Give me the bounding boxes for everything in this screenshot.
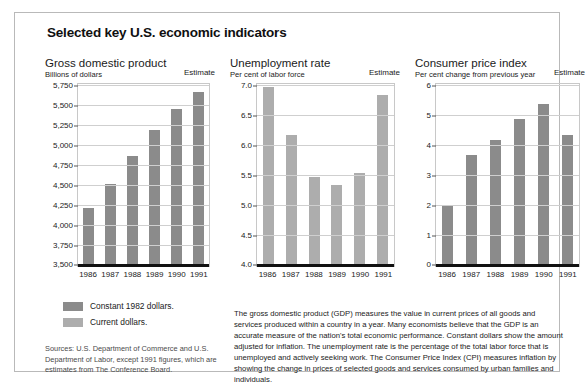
y-axis-tick-label: 6.0 bbox=[241, 141, 257, 150]
bar bbox=[466, 155, 477, 265]
bar bbox=[127, 156, 138, 264]
x-axis-tick-label: 1991 bbox=[372, 270, 394, 279]
gridline bbox=[78, 245, 209, 246]
gridline bbox=[257, 205, 394, 206]
bar bbox=[514, 119, 525, 264]
bar bbox=[286, 135, 297, 264]
x-axis-tick-label: 1986 bbox=[257, 270, 279, 279]
gridline bbox=[257, 85, 394, 86]
x-axis-tick-label: 1990 bbox=[349, 270, 371, 279]
y-axis-tick-label: 6 bbox=[427, 81, 436, 90]
gridline bbox=[257, 175, 394, 176]
plot-area-unemployment: 7.06.56.05.55.04.54.0 bbox=[256, 83, 395, 267]
y-axis-tick-label: 5,250 bbox=[53, 121, 78, 130]
y-axis-tick-label: 4,500 bbox=[53, 181, 78, 190]
x-axis-tick-label: 1987 bbox=[460, 270, 482, 279]
page-title: Selected key U.S. economic indicators bbox=[47, 25, 286, 40]
x-axis-tick-label: 1987 bbox=[280, 270, 302, 279]
estimate-label-gdp: Estimate bbox=[184, 68, 215, 77]
bar bbox=[538, 104, 549, 265]
legend-label: Current dollars. bbox=[90, 317, 147, 327]
bar bbox=[105, 184, 116, 264]
bar-group-unemployment bbox=[257, 84, 394, 264]
y-axis-tick-label: 3,500 bbox=[53, 260, 78, 269]
gridline bbox=[257, 115, 394, 116]
axis-baseline bbox=[257, 264, 394, 267]
axis-baseline bbox=[436, 264, 579, 267]
gridline bbox=[436, 145, 579, 146]
bar bbox=[354, 173, 365, 264]
y-axis-tick-label: 4 bbox=[427, 141, 436, 150]
gridline bbox=[78, 205, 209, 206]
y-axis-tick-label: 3,750 bbox=[53, 241, 78, 250]
estimate-label-unemployment: Estimate bbox=[369, 68, 400, 77]
x-axis-labels-cpi: 198619871988198919901991 bbox=[435, 270, 580, 279]
plot-area-cpi: 6543210 bbox=[435, 83, 580, 267]
y-axis-tick-label: 5,000 bbox=[53, 141, 78, 150]
axis-baseline bbox=[78, 264, 209, 267]
estimate-label-cpi: Estimate bbox=[554, 68, 585, 77]
x-axis-tick-label: 1991 bbox=[557, 270, 579, 279]
y-axis-tick-label: 1 bbox=[427, 231, 436, 240]
y-axis-tick-label: 3 bbox=[427, 171, 436, 180]
bar bbox=[193, 92, 204, 264]
legend: Constant 1982 dollars.Current dollars. bbox=[63, 301, 174, 333]
figure-panel: Selected key U.S. economic indicators Gr… bbox=[14, 12, 560, 372]
y-axis-tick-label: 4.0 bbox=[241, 260, 257, 269]
x-axis-tick-label: 1989 bbox=[509, 270, 531, 279]
gridline bbox=[78, 125, 209, 126]
y-axis-tick-label: 5 bbox=[427, 111, 436, 120]
bar bbox=[309, 177, 320, 264]
gridline bbox=[78, 225, 209, 226]
gridline bbox=[436, 205, 579, 206]
x-axis-tick-label: 1990 bbox=[533, 270, 555, 279]
bar bbox=[331, 185, 342, 264]
legend-item: Current dollars. bbox=[63, 317, 174, 327]
y-axis-tick-label: 4,000 bbox=[53, 221, 78, 230]
y-axis-tick-label: 4,750 bbox=[53, 161, 78, 170]
chart-panel-unemployment: Unemployment rate Per cent of labor forc… bbox=[230, 57, 396, 279]
x-axis-tick-label: 1991 bbox=[188, 270, 210, 279]
legend-swatch bbox=[63, 318, 83, 327]
gridline bbox=[78, 145, 209, 146]
y-axis-tick-label: 4.5 bbox=[241, 231, 257, 240]
bar-group-gdp bbox=[78, 84, 209, 264]
legend-swatch bbox=[63, 302, 83, 311]
gridline bbox=[257, 235, 394, 236]
bar-group-cpi bbox=[436, 84, 579, 264]
x-axis-labels-unemployment: 198619871988198919901991 bbox=[256, 270, 395, 279]
x-axis-tick-label: 1987 bbox=[99, 270, 121, 279]
gridline bbox=[436, 235, 579, 236]
x-axis-tick-label: 1988 bbox=[121, 270, 143, 279]
y-axis-tick-label: 5,500 bbox=[53, 101, 78, 110]
x-axis-tick-label: 1989 bbox=[144, 270, 166, 279]
y-axis-tick-label: 5.0 bbox=[241, 201, 257, 210]
chart-panel-gdp: Gross domestic product Billions of dolla… bbox=[45, 57, 211, 279]
gridline bbox=[436, 85, 579, 86]
chart-panel-cpi: Consumer price index Per cent change fro… bbox=[415, 57, 581, 279]
y-axis-tick-label: 4,250 bbox=[53, 201, 78, 210]
y-axis-tick-label: 5.5 bbox=[241, 171, 257, 180]
x-axis-tick-label: 1989 bbox=[326, 270, 348, 279]
y-axis-tick-label: 7.0 bbox=[241, 81, 257, 90]
x-axis-tick-label: 1990 bbox=[166, 270, 188, 279]
x-axis-tick-label: 1986 bbox=[436, 270, 458, 279]
plot-area-gdp: 5,7505,5005,2505,0004,7504,5004,2504,000… bbox=[77, 83, 210, 267]
gridline bbox=[436, 115, 579, 116]
y-axis-tick-label: 6.5 bbox=[241, 111, 257, 120]
bar bbox=[149, 130, 160, 264]
gridline bbox=[78, 105, 209, 106]
bar bbox=[377, 95, 388, 264]
gridline bbox=[78, 85, 209, 86]
x-axis-tick-label: 1986 bbox=[77, 270, 99, 279]
gridline bbox=[436, 175, 579, 176]
gridline bbox=[78, 185, 209, 186]
y-axis-tick-label: 2 bbox=[427, 201, 436, 210]
bar bbox=[83, 208, 94, 264]
y-axis-tick-label: 5,750 bbox=[53, 81, 78, 90]
bar bbox=[562, 135, 573, 264]
y-axis-tick-label: 0 bbox=[427, 260, 436, 269]
gridline bbox=[78, 165, 209, 166]
bar bbox=[490, 140, 501, 264]
sources-note: Sources: U.S. Department of Commerce and… bbox=[45, 344, 225, 376]
